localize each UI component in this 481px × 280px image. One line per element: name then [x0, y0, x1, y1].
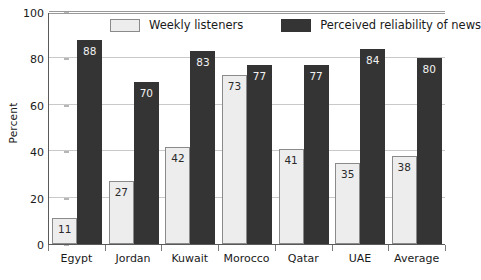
x-tick-mark [161, 245, 162, 251]
x-axis-category-label: Jordan [105, 252, 162, 265]
bar[interactable]: 88 [77, 40, 102, 244]
bar[interactable]: 84 [360, 49, 385, 244]
bar[interactable]: 73 [222, 75, 247, 244]
x-tick-mark [332, 245, 333, 251]
bar[interactable]: 41 [279, 149, 304, 244]
x-axis-tick-marks [48, 245, 445, 251]
bar-value-label: 83 [191, 57, 214, 68]
bar[interactable]: 83 [190, 51, 215, 244]
bar-value-label: 84 [361, 55, 384, 66]
y-tick-label: 80 [30, 53, 44, 66]
bar-value-label: 41 [280, 155, 303, 166]
x-tick-mark [388, 245, 389, 251]
legend-swatch-icon [281, 19, 311, 32]
x-tick-mark [218, 245, 219, 251]
bar-value-label: 70 [135, 88, 158, 99]
bar[interactable]: 70 [134, 82, 159, 244]
bar[interactable]: 27 [109, 181, 134, 244]
x-axis-category-label: Morocco [218, 252, 275, 265]
bar[interactable]: 11 [52, 218, 77, 244]
y-tick-label: 0 [37, 239, 44, 252]
legend-item[interactable]: Perceived reliability of news [281, 18, 481, 32]
legend-label: Perceived reliability of news [320, 18, 481, 32]
x-axis-category-label: UAE [332, 252, 389, 265]
legend-swatch-icon [110, 19, 140, 32]
x-axis-category-label: Egypt [48, 252, 105, 265]
bar-group: 4283 [162, 13, 219, 244]
y-tick-label: 100 [23, 7, 44, 20]
bar-group: 4177 [275, 13, 332, 244]
x-tick-mark [445, 245, 446, 251]
x-tick-mark [275, 245, 276, 251]
x-axis-labels: EgyptJordanKuwaitMoroccoQatarUAEAverage [48, 252, 445, 265]
x-tick-mark [48, 245, 49, 251]
bar[interactable]: 38 [392, 156, 417, 244]
bar[interactable]: 77 [247, 65, 272, 244]
legend-label: Weekly listeners [149, 18, 243, 32]
bar-group: 3584 [332, 13, 389, 244]
y-axis-tick-labels: 020406080100 [20, 13, 44, 245]
x-axis-category-label: Kuwait [161, 252, 218, 265]
y-axis-title-text: Percent [7, 102, 19, 143]
y-tick-label: 40 [30, 146, 44, 159]
bar-value-label: 88 [78, 46, 101, 57]
y-tick-label: 60 [30, 99, 44, 112]
bar[interactable]: 42 [165, 147, 190, 244]
bar-group: 2770 [106, 13, 163, 244]
bar-value-label: 27 [110, 187, 133, 198]
bar-value-label: 11 [53, 224, 76, 235]
bar-groups: 1188277042837377417735843880 [49, 13, 445, 244]
bar-value-label: 73 [223, 81, 246, 92]
legend-item[interactable]: Weekly listeners [110, 18, 243, 32]
bar-value-label: 35 [336, 169, 359, 180]
gridline [49, 11, 445, 12]
x-tick-mark [105, 245, 106, 251]
bar-value-label: 77 [248, 71, 271, 82]
bar[interactable]: 80 [417, 58, 442, 244]
bar-value-label: 80 [418, 64, 441, 75]
bar-group: 3880 [388, 13, 445, 244]
bar-value-label: 42 [166, 153, 189, 164]
bar-group: 7377 [219, 13, 276, 244]
x-axis-category-label: Qatar [275, 252, 332, 265]
bar-group: 1188 [49, 13, 106, 244]
y-tick-label: 20 [30, 192, 44, 205]
bar[interactable]: 35 [335, 163, 360, 244]
bar-value-label: 38 [393, 162, 416, 173]
chart-legend: Weekly listenersPerceived reliability of… [110, 18, 481, 32]
plot-area: 1188277042837377417735843880 [48, 13, 445, 245]
x-axis-category-label: Average [388, 252, 445, 265]
bar-value-label: 77 [305, 71, 328, 82]
bar[interactable]: 77 [304, 65, 329, 244]
